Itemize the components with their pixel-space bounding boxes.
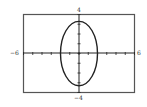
ellipse-plot (0, 0, 147, 107)
ymin-label: −4 (74, 95, 83, 101)
ymax-label: 4 (77, 7, 81, 13)
xmin-label: −6 (10, 50, 19, 56)
xmax-label: 6 (137, 50, 141, 56)
